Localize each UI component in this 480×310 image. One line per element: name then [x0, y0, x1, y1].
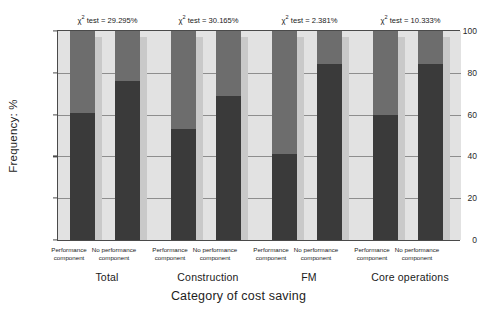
- chi-square-annotation-construction: χ2 test = 30.165%: [158, 14, 259, 25]
- label-line-2: component: [285, 254, 347, 262]
- bar-segment-light: [317, 31, 342, 64]
- axis-line-bottom: [57, 240, 460, 241]
- bar-tick-label-fm-no-performance: No performance component: [285, 246, 347, 261]
- bar-group-total: [58, 31, 159, 240]
- x-axis-title: Category of cost saving: [0, 289, 477, 303]
- chi-superscript: 2: [384, 14, 387, 20]
- chi-superscript: 2: [81, 14, 84, 20]
- bar-segment-light: [216, 31, 241, 96]
- bar-segment-dark: [115, 81, 140, 240]
- y-axis-title: Frequency: %: [7, 76, 19, 196]
- stacked-bar[interactable]: [418, 31, 443, 240]
- bar-tick-label-total-no-performance: No performance component: [83, 246, 145, 261]
- bar-segment-light: [115, 31, 140, 81]
- bar-segment-dark: [317, 64, 342, 240]
- bar-segment-light: [373, 31, 398, 115]
- bar-segment-dark: [373, 115, 398, 240]
- stacked-bar[interactable]: [171, 31, 196, 240]
- bar-segment-light: [70, 31, 95, 113]
- stacked-bar[interactable]: [216, 31, 241, 240]
- bar-group-core-operations: [361, 31, 462, 240]
- chi-square-annotation-core-operations: χ2 test = 10.333%: [360, 14, 461, 25]
- bar-segment-light: [272, 31, 297, 154]
- chi-value-text: test = 2.381%: [291, 16, 338, 25]
- chi-square-annotation-total: χ2 test = 29.295%: [57, 14, 158, 25]
- bar-tick-label-core-operations-no-performance: No performance component: [386, 246, 448, 261]
- bar-group-construction: [159, 31, 260, 240]
- chi-value-text: test = 10.333%: [390, 16, 441, 25]
- chi-value-text: test = 30.165%: [188, 16, 239, 25]
- stacked-bar[interactable]: [115, 31, 140, 240]
- bar-segment-dark: [70, 113, 95, 240]
- bar-segment-dark: [272, 154, 297, 240]
- stacked-bar[interactable]: [272, 31, 297, 240]
- bar-segment-dark: [171, 129, 196, 240]
- label-line-1: No performance: [386, 246, 448, 254]
- plot-area: [57, 31, 461, 240]
- bar-segment-dark: [418, 64, 443, 240]
- chi-square-annotation-fm: χ2 test = 2.381%: [259, 14, 360, 25]
- label-line-2: component: [386, 254, 448, 262]
- stacked-bar[interactable]: [70, 31, 95, 240]
- bar-group-fm: [260, 31, 361, 240]
- label-line-1: No performance: [83, 246, 145, 254]
- stacked-bar[interactable]: [373, 31, 398, 240]
- chi-value-text: test = 29.295%: [87, 16, 138, 25]
- bar-segment-dark: [216, 96, 241, 240]
- bar-segment-light: [418, 31, 443, 64]
- chi-superscript: 2: [182, 14, 185, 20]
- label-line-2: component: [83, 254, 145, 262]
- label-line-1: No performance: [285, 246, 347, 254]
- group-label-core-operations: Core operations: [340, 271, 480, 283]
- label-line-1: No performance: [184, 246, 246, 254]
- stacked-bar[interactable]: [317, 31, 342, 240]
- chi-superscript: 2: [286, 14, 289, 20]
- bar-segment-light: [171, 31, 196, 129]
- label-line-2: component: [184, 254, 246, 262]
- bar-tick-label-construction-no-performance: No performance component: [184, 246, 246, 261]
